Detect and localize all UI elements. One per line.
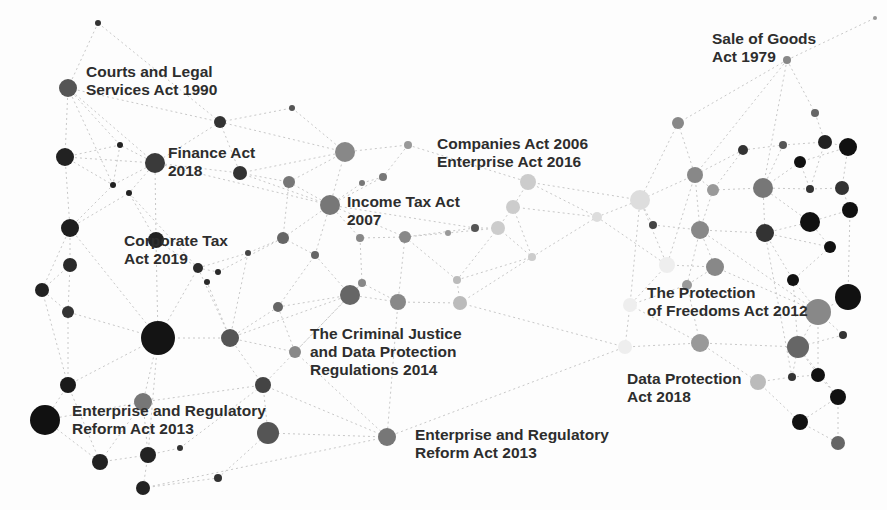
graph-node — [404, 141, 412, 149]
graph-node — [311, 251, 319, 259]
act-label: The Protectionof Freedoms Act 2012 — [647, 284, 808, 319]
graph-node — [830, 389, 846, 405]
graph-edge — [230, 253, 248, 338]
graph-node — [283, 176, 295, 188]
graph-node — [691, 221, 709, 239]
node-courts-and-legal-services-act-1990: Courts and Legal Services Act 1990 — [59, 79, 77, 97]
graph-node — [453, 276, 461, 284]
graph-node — [794, 156, 806, 168]
graph-edge — [383, 145, 408, 177]
graph-node — [63, 258, 77, 272]
graph-edge — [143, 385, 263, 402]
graph-edge — [405, 233, 448, 237]
graph-edge — [678, 123, 695, 175]
graph-node — [818, 135, 832, 149]
graph-edge — [763, 60, 787, 188]
graph-edge — [625, 343, 700, 347]
graph-edge — [278, 307, 295, 352]
graph-edge — [528, 182, 640, 200]
graph-edge — [68, 88, 113, 185]
graph-node — [56, 148, 74, 166]
graph-edge — [65, 88, 68, 157]
graph-edge — [268, 433, 387, 437]
graph-node — [233, 166, 247, 180]
graph-node — [811, 368, 825, 382]
graph-node — [221, 329, 239, 347]
graph-node — [756, 224, 774, 242]
graph-node — [214, 116, 226, 128]
graph-edge — [513, 207, 597, 217]
node-income-tax-act-2007: Income Tax Act 2007 — [320, 195, 340, 215]
graph-node — [831, 436, 845, 450]
graph-node — [335, 142, 355, 162]
graph-edge — [398, 302, 460, 303]
graph-edge — [240, 173, 289, 182]
graph-node — [839, 331, 847, 339]
graph-node — [800, 212, 820, 232]
graph-node — [60, 377, 76, 393]
graph-node — [117, 142, 123, 148]
graph-edge — [460, 303, 625, 347]
graph-edge — [713, 150, 743, 190]
graph-node — [126, 190, 132, 196]
graph-edge — [278, 255, 315, 307]
graph-node — [245, 250, 251, 256]
graph-edge — [667, 175, 695, 265]
graph-edge — [42, 228, 70, 290]
node-companies-act-2006-enterprise-act-2016: Companies Act 2006 Enterprise Act 2016 — [520, 174, 536, 190]
graph-node — [453, 296, 467, 310]
graph-node — [141, 321, 175, 355]
graph-node — [787, 274, 799, 286]
graph-node — [379, 173, 387, 181]
graph-edge — [513, 207, 532, 257]
graph-node — [92, 454, 108, 470]
graph-node — [687, 167, 703, 183]
node-enterprise-and-regulatory-reform-act-2013-left: Enterprise and Regulatory Reform Act 201… — [30, 405, 60, 435]
graph-node — [672, 117, 684, 129]
act-label: Data ProtectionAct 2018 — [627, 370, 742, 405]
graph-edge — [810, 142, 825, 189]
graph-node — [140, 447, 156, 463]
graph-node — [358, 279, 366, 287]
graph-edge — [457, 228, 498, 280]
graph-edge — [360, 238, 362, 283]
graph-edge — [532, 217, 597, 257]
graph-edge — [65, 157, 155, 163]
graph-node — [707, 184, 719, 196]
graph-edge — [65, 157, 70, 228]
graph-node — [177, 445, 183, 451]
node-corporate-tax-act-2019: Corporate Tax Act 2019 — [193, 263, 203, 273]
graph-edge — [220, 108, 292, 122]
graph-edge — [678, 60, 787, 123]
graph-node — [204, 279, 210, 285]
graph-node — [399, 231, 411, 243]
graph-edge — [630, 200, 640, 305]
graph-node — [506, 200, 520, 214]
graph-edge — [230, 338, 295, 352]
graph-edge — [68, 265, 70, 312]
node-finance-act-2018: Finance Act 2018 — [145, 153, 165, 173]
graph-node — [618, 340, 632, 354]
graph-node — [811, 109, 819, 117]
graph-edge — [793, 247, 830, 280]
graph-edge — [155, 163, 156, 240]
graph-edge — [528, 182, 597, 217]
node-data-protection-act-2018: Data Protection Act 2018 — [750, 374, 766, 390]
graph-node — [806, 185, 814, 193]
graph-node — [255, 377, 271, 393]
graph-edge — [360, 237, 405, 238]
graph-node — [592, 212, 602, 222]
network-graph: Courts and Legal Services Act 1990Financ… — [0, 0, 887, 510]
graph-edge — [42, 290, 68, 385]
graph-node — [289, 105, 295, 111]
graph-node — [691, 334, 709, 352]
graph-edge — [405, 237, 457, 280]
graph-edge — [457, 257, 532, 280]
graph-edge — [207, 282, 230, 338]
graph-node — [136, 481, 150, 495]
graph-edge — [700, 230, 765, 233]
node-protection-of-freedoms-act-2012: The Protection of Freedoms Act 2012 — [623, 298, 637, 312]
graph-node — [805, 299, 831, 325]
act-label: Income Tax Act2007 — [347, 193, 460, 228]
graph-edge — [278, 295, 350, 307]
